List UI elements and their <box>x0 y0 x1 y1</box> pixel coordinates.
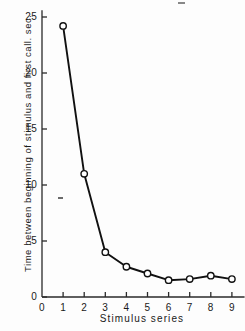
data-point-3 <box>102 249 108 255</box>
data-point-9 <box>229 276 235 282</box>
data-point-7 <box>187 276 193 282</box>
figure-container: 0510152025 0123456789 Stimulus series Ti… <box>0 0 245 331</box>
data-point-2 <box>81 171 87 177</box>
x-axis-label: Stimulus series <box>42 313 242 324</box>
data-point-4 <box>123 264 129 270</box>
x-tick-label-7: 7 <box>183 302 197 313</box>
x-tick-label-4: 4 <box>119 302 133 313</box>
y-tick-label-0: 0 <box>15 291 37 302</box>
data-line <box>63 26 232 280</box>
x-tick-label-8: 8 <box>204 302 218 313</box>
data-point-markers <box>60 23 235 284</box>
data-point-8 <box>208 273 214 279</box>
data-point-1 <box>60 23 66 29</box>
x-tick-label-9: 9 <box>225 302 239 313</box>
y-axis-label: Time between beginning of stimulus and f… <box>22 22 33 272</box>
x-tick-label-3: 3 <box>98 302 112 313</box>
data-point-6 <box>165 277 171 283</box>
x-tick-marks <box>63 292 232 297</box>
axes-lines <box>42 10 245 297</box>
y-tick-marks <box>42 17 47 297</box>
x-tick-label-6: 6 <box>162 302 176 313</box>
scan-speck-artifact-top <box>178 2 185 4</box>
x-tick-label-0: 0 <box>35 302 49 313</box>
scan-speck-artifact <box>58 197 63 199</box>
x-tick-label-5: 5 <box>141 302 155 313</box>
data-point-5 <box>144 270 150 276</box>
x-tick-label-1: 1 <box>56 302 70 313</box>
plot-area <box>0 0 245 331</box>
y-axis-label-wrapper: Time between beginning of stimulus and f… <box>22 22 36 272</box>
x-tick-label-2: 2 <box>77 302 91 313</box>
